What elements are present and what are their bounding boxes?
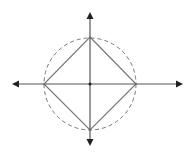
x-axis-left-arrow-icon <box>12 81 19 88</box>
origin-point <box>89 83 92 86</box>
diagram-canvas <box>0 0 191 154</box>
y-axis-up-arrow-icon <box>87 12 94 19</box>
x-axis-right-arrow-icon <box>176 81 183 88</box>
y-axis-down-arrow-icon <box>87 139 94 146</box>
